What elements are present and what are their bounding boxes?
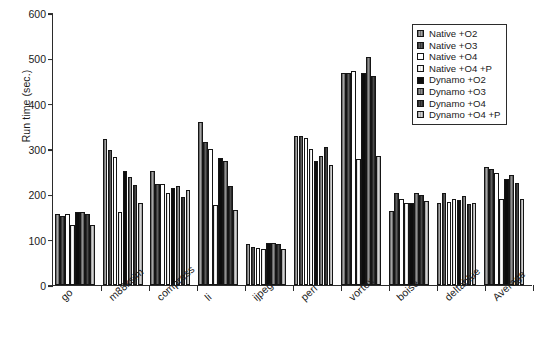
bar[interactable] (108, 150, 113, 285)
legend-item[interactable]: Dynamo +O2 (417, 74, 500, 86)
bar[interactable] (324, 147, 329, 285)
bar[interactable] (294, 136, 299, 285)
bar[interactable] (351, 71, 356, 285)
bar[interactable] (70, 225, 75, 285)
legend-item[interactable]: Native +O4 (417, 51, 500, 63)
legend-item[interactable]: Dynamo +O4 +P (417, 109, 500, 121)
bar[interactable] (299, 136, 304, 285)
legend-item[interactable]: Native +O4 +P (417, 63, 500, 75)
bar[interactable] (198, 122, 203, 285)
bar[interactable] (419, 195, 424, 285)
bar[interactable] (356, 159, 361, 285)
x-axis-label: li (202, 291, 214, 303)
x-axis-labels: gom88ksimcompressliijpegperlvortexboised… (52, 288, 532, 342)
bar[interactable] (65, 214, 70, 285)
legend-label: Native +O2 (429, 29, 477, 39)
bar[interactable] (223, 161, 228, 285)
bar[interactable] (85, 214, 90, 285)
bar[interactable] (437, 203, 442, 286)
bar[interactable] (276, 244, 281, 285)
bar[interactable] (60, 216, 65, 285)
legend-label: Dynamo +O4 +P (429, 110, 500, 120)
legend-label: Native +O4 +P (429, 64, 492, 74)
bar[interactable] (424, 201, 429, 285)
bar[interactable] (329, 165, 334, 285)
y-axis-tick-label: 200 (28, 190, 53, 201)
bar[interactable] (399, 199, 404, 285)
bar[interactable] (389, 211, 394, 285)
bar[interactable] (55, 214, 60, 285)
bar[interactable] (160, 184, 165, 285)
bar[interactable] (376, 156, 381, 285)
bar[interactable] (452, 199, 457, 285)
bar[interactable] (447, 202, 452, 285)
x-axis-label: go (58, 286, 75, 303)
bar[interactable] (314, 161, 319, 285)
bar[interactable] (442, 193, 447, 285)
legend-swatch-icon (417, 77, 424, 84)
x-axis-label-cell: ijpeg (244, 288, 292, 342)
bar[interactable] (208, 149, 213, 285)
y-axis-tick-label: 500 (28, 54, 53, 65)
legend-label: Native +O3 (429, 41, 477, 51)
bar[interactable] (341, 73, 346, 285)
bar-group (341, 14, 389, 285)
legend-item[interactable]: Native +O3 (417, 40, 500, 52)
bar[interactable] (118, 212, 123, 285)
bar[interactable] (499, 199, 504, 285)
bar[interactable] (504, 179, 509, 285)
bar[interactable] (228, 186, 233, 285)
bar[interactable] (256, 248, 261, 285)
x-axis-label-cell: perl (292, 288, 340, 342)
legend-swatch-icon (417, 65, 424, 72)
bar[interactable] (271, 243, 276, 285)
bar[interactable] (394, 193, 399, 285)
bar[interactable] (246, 244, 251, 285)
bar[interactable] (457, 200, 462, 285)
bar[interactable] (155, 184, 160, 285)
bar[interactable] (346, 73, 351, 285)
bar[interactable] (213, 205, 218, 285)
legend-label: Native +O4 (429, 52, 477, 62)
bar[interactable] (171, 188, 176, 285)
legend-label: Dynamo +O2 (429, 75, 486, 85)
bar[interactable] (90, 225, 95, 285)
legend-item[interactable]: Native +O2 (417, 28, 500, 40)
legend-swatch-icon (417, 30, 424, 37)
bar[interactable] (409, 203, 414, 285)
bar-group (198, 14, 246, 285)
bar[interactable] (80, 212, 85, 285)
bar[interactable] (218, 158, 223, 285)
bar[interactable] (150, 171, 155, 285)
bar[interactable] (233, 210, 238, 285)
bar[interactable] (251, 247, 256, 285)
legend-label: Dynamo +O4 (429, 99, 486, 109)
bar[interactable] (113, 157, 118, 285)
legend-item[interactable]: Dynamo +O3 (417, 86, 500, 98)
bar[interactable] (489, 169, 494, 285)
bar[interactable] (309, 149, 314, 285)
bar[interactable] (103, 139, 108, 285)
bar[interactable] (509, 175, 514, 285)
legend-swatch-icon (417, 53, 424, 60)
x-axis-label-cell: go (52, 288, 100, 342)
bar[interactable] (371, 76, 376, 285)
bar[interactable] (366, 57, 371, 285)
bar[interactable] (304, 138, 309, 285)
bar[interactable] (166, 193, 171, 285)
bar[interactable] (75, 212, 80, 285)
bar[interactable] (203, 142, 208, 285)
bar[interactable] (128, 177, 133, 285)
bar[interactable] (319, 156, 324, 285)
y-axis-tick-label: 100 (28, 235, 53, 246)
bar[interactable] (484, 167, 489, 285)
legend-swatch-icon (417, 111, 424, 118)
bar[interactable] (414, 193, 419, 285)
bar[interactable] (123, 171, 128, 285)
bar[interactable] (404, 203, 409, 286)
bar[interactable] (494, 173, 499, 285)
bar[interactable] (281, 249, 286, 285)
x-axis-label-cell: li (196, 288, 244, 342)
bar[interactable] (361, 73, 366, 285)
legend-item[interactable]: Dynamo +O4 (417, 98, 500, 110)
